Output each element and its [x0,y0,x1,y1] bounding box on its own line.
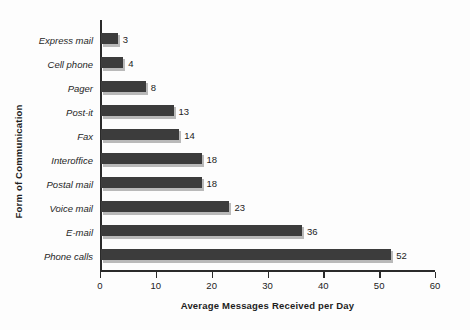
bar-fill [101,57,123,68]
x-tick-label: 60 [430,280,441,291]
x-tick-label: 10 [151,280,162,291]
bar-fill [101,201,229,212]
bar-row: Postal mail18 [100,172,435,196]
bar-value-label: 36 [307,226,318,237]
x-tick [212,272,213,278]
x-tick-label: 20 [206,280,217,291]
category-label: Phone calls [44,251,93,262]
category-label: Post-it [66,107,93,118]
bar-end-cap [229,203,231,215]
y-axis-title: Form of Communication [13,82,24,242]
bar-shadow [103,68,125,71]
bar-end-cap [118,35,120,47]
bar: 8 [101,81,146,95]
bar-value-label: 18 [207,178,218,189]
bar-row: Post-it13 [100,100,435,124]
bar-fill [101,33,118,44]
bar-chart: Form of Communication 0102030405060 Expr… [0,0,470,330]
bar-fill [101,129,179,140]
category-label: Voice mail [50,203,93,214]
x-tick [435,272,436,278]
bar: 52 [101,249,391,263]
bar: 14 [101,129,179,143]
bar: 13 [101,105,174,119]
bar-value-label: 52 [396,250,407,261]
bar-end-cap [146,83,148,95]
bar-row: Cell phone4 [100,52,435,76]
bar-row: Express mail3 [100,28,435,52]
bar: 18 [101,153,202,167]
bar: 3 [101,33,118,47]
bar-value-label: 4 [128,58,133,69]
bar-value-label: 13 [179,106,190,117]
bar-value-label: 8 [151,82,156,93]
bar-shadow [103,164,204,167]
bar-shadow [103,116,176,119]
bar-row: Interoffice18 [100,148,435,172]
bar-row: Fax14 [100,124,435,148]
bar-end-cap [174,107,176,119]
bar-end-cap [391,251,393,263]
bar-fill [101,105,174,116]
bar-shadow [103,236,304,239]
bar-shadow [103,212,231,215]
category-label: Cell phone [48,59,93,70]
bar-shadow [103,92,148,95]
bar-end-cap [202,155,204,167]
plot-area: 0102030405060 Express mail3Cell phone4Pa… [100,20,435,272]
category-label: Express mail [39,35,93,46]
bar-value-label: 23 [234,202,245,213]
bar-row: E-mail36 [100,220,435,244]
category-label: Fax [77,131,93,142]
x-tick [156,272,157,278]
bar-end-cap [179,131,181,143]
bar: 18 [101,177,202,191]
x-tick [268,272,269,278]
bar-fill [101,153,202,164]
bar: 36 [101,225,302,239]
category-label: Pager [68,83,93,94]
x-tick-label: 50 [374,280,385,291]
bar-shadow [103,260,393,263]
bar-value-label: 3 [123,34,128,45]
x-tick-label: 40 [318,280,329,291]
bar-row: Pager8 [100,76,435,100]
category-label: Postal mail [47,179,93,190]
bar-fill [101,225,302,236]
x-axis-title: Average Messages Received per Day [100,300,435,311]
bar-end-cap [302,227,304,239]
bar-fill [101,81,146,92]
bar-row: Phone calls52 [100,244,435,268]
x-tick [100,272,101,278]
bar-row: Voice mail23 [100,196,435,220]
bar-fill [101,177,202,188]
category-label: E-mail [66,227,93,238]
x-tick-label: 30 [262,280,273,291]
bar-shadow [103,140,181,143]
bar-end-cap [202,179,204,191]
bar-end-cap [123,59,125,71]
bar-value-label: 18 [207,154,218,165]
bar-value-label: 14 [184,130,195,141]
bar-fill [101,249,391,260]
category-label: Interoffice [51,155,93,166]
bar-shadow [103,188,204,191]
x-tick [323,272,324,278]
bar: 23 [101,201,229,215]
x-tick-label: 0 [97,280,102,291]
x-tick [379,272,380,278]
bar: 4 [101,57,123,71]
